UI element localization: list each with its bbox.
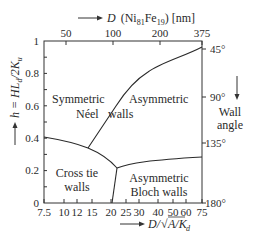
- region-asymmetric-walls: walls: [108, 107, 134, 121]
- arrow-right-icon: [139, 222, 145, 227]
- svg-text:100: 100: [105, 27, 122, 39]
- bottom-axis-label: D/ √ A/K d: [120, 217, 191, 233]
- left-axis-label: h = HLd/2Ku: [8, 57, 24, 145]
- top-axis-tick-labels: 50 100 200 375: [61, 27, 211, 39]
- region-labels: Symmetric Néel Asymmetric walls Cross ti…: [52, 92, 189, 199]
- bloch-asymmetric-boundary: [117, 157, 202, 168]
- svg-text:25: 25: [121, 206, 133, 218]
- svg-text:50: 50: [61, 27, 73, 39]
- arrow-down-icon: [235, 94, 240, 100]
- svg-text:0.4: 0.4: [25, 132, 39, 144]
- region-cross-tie: Cross tie: [56, 166, 98, 180]
- svg-text:90°: 90°: [210, 91, 225, 103]
- svg-text:45°: 45°: [210, 43, 225, 55]
- svg-text:√: √: [161, 217, 168, 231]
- svg-text:20: 20: [106, 206, 118, 218]
- svg-text:1: 1: [34, 35, 40, 47]
- right-axis-ticks: [202, 49, 206, 203]
- svg-text:Wall: Wall: [219, 105, 242, 119]
- bottom-axis-ticks: [44, 199, 202, 203]
- svg-text:375: 375: [194, 27, 211, 39]
- phase-diagram: 50 100 200 375 D (Ni81Fe19) [nm] 1 0.8 0…: [0, 0, 257, 240]
- svg-text:0.8: 0.8: [25, 67, 39, 79]
- svg-text:0.6: 0.6: [25, 100, 39, 112]
- left-axis-tick-labels: 1 0.8 0.6 0.4 0.2 0: [25, 35, 39, 209]
- svg-text:200: 200: [152, 27, 169, 39]
- arrow-right-icon: [97, 16, 103, 21]
- svg-text:30: 30: [134, 206, 146, 218]
- svg-text:10: 10: [59, 206, 71, 218]
- svg-text:D (Ni81Fe19) [nm]: D (Ni81Fe19) [nm]: [106, 11, 195, 27]
- right-axis-label: Wall angle: [217, 76, 243, 132]
- svg-text:15: 15: [87, 206, 99, 218]
- region-asymmetric-bloch: Asymmetric: [129, 171, 188, 185]
- crosstie-neel-boundary: [44, 137, 117, 168]
- region-neel: Néel: [76, 107, 99, 121]
- svg-text:180°: 180°: [205, 197, 226, 209]
- svg-text:d: d: [186, 224, 191, 233]
- svg-text:h = HLd/2Ku: h = HLd/2Ku: [8, 57, 24, 118]
- crosstie-bloch-boundary: [112, 168, 117, 203]
- region-asymmetric: Asymmetric: [129, 92, 188, 106]
- svg-text:A/K: A/K: [167, 217, 188, 231]
- arrow-up-icon: [13, 122, 18, 128]
- region-symmetric: Symmetric: [52, 92, 105, 106]
- top-axis-label: D (Ni81Fe19) [nm]: [78, 11, 195, 27]
- svg-text:12: 12: [72, 206, 83, 218]
- svg-text:135°: 135°: [205, 137, 226, 149]
- svg-text:angle: angle: [217, 118, 243, 132]
- svg-text:D/: D/: [147, 217, 162, 231]
- svg-text:7.5: 7.5: [37, 206, 51, 218]
- region-bloch-walls: Bloch walls: [131, 185, 188, 199]
- region-cross-tie-walls: walls: [64, 180, 90, 194]
- svg-text:0.2: 0.2: [25, 164, 39, 176]
- top-axis-ticks: [66, 41, 202, 45]
